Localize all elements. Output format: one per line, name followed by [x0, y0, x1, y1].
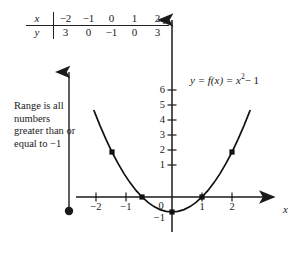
range-indicator [65, 72, 73, 215]
range-closed-endpoint-dot [65, 207, 73, 215]
data-point-marker [229, 149, 234, 154]
data-point-marker [169, 209, 174, 214]
y-axis [168, 20, 177, 232]
plot-canvas [0, 0, 300, 264]
x-axis [76, 193, 274, 202]
data-point-marker [199, 194, 204, 199]
data-point-marker [109, 149, 114, 154]
data-point-marker [139, 194, 144, 199]
figure-root: x −2 −1 0 1 2 y 3 0 −1 0 3 Range is all … [0, 0, 300, 264]
